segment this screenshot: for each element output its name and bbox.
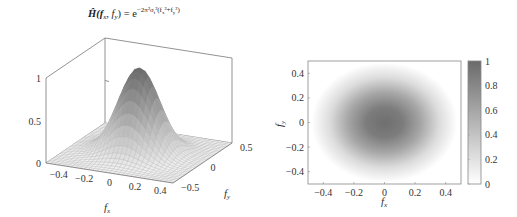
z-tick-label: 0.5 — [29, 116, 42, 127]
heatmap-y-tick: −0.2 — [286, 142, 304, 153]
gaussian-surface — [46, 68, 232, 183]
surface-plot-3d: −0.4−0.200.20.4−0.500.500.51 fx fy — [29, 38, 253, 215]
x-tick-label: −0.2 — [75, 173, 93, 184]
colorbar-tick: 0.2 — [485, 154, 498, 165]
heatmap-y-tick: 0.2 — [292, 92, 305, 103]
heatmap-plot: −0.4−0.200.20.4−0.4−0.200.20.4 fx fy 00.… — [273, 56, 498, 210]
x-tick-label: 0 — [107, 177, 112, 188]
surface-xlabel: fx — [104, 201, 111, 215]
y-tick-label: 0.5 — [240, 142, 253, 153]
heatmap-ylabel: fy — [273, 120, 287, 127]
heatmap-x-tick: 0.2 — [409, 187, 422, 198]
x-tick-label: 0.4 — [154, 185, 167, 196]
figure: Ĥ(fx, fy) = e−2π²σt²(fx²+fy²) −0.4−0.200… — [0, 0, 517, 217]
z-tick-label: 0 — [36, 158, 41, 169]
surface-ylabel: fy — [224, 187, 231, 201]
colorbar-tick: 0.6 — [485, 105, 498, 116]
colorbar-tick: 1 — [485, 56, 490, 67]
y-tick-label: −0.5 — [181, 182, 199, 193]
y-tick-label: 0 — [211, 162, 216, 173]
heatmap-x-tick: −0.2 — [345, 187, 363, 198]
colorbar-tick: 0 — [485, 179, 490, 190]
colorbar — [468, 61, 481, 184]
heatmap-x-tick: −0.4 — [314, 187, 332, 198]
heatmap-y-tick: −0.4 — [286, 166, 304, 177]
heatmap-gaussian — [312, 63, 458, 183]
surface-title: Ĥ(fx, fy) = e−2π²σt²(fx²+fy²) — [87, 6, 180, 21]
heatmap-x-tick: 0.4 — [439, 187, 452, 198]
x-tick-label: −0.4 — [50, 169, 68, 180]
z-tick-label: 1 — [36, 73, 41, 84]
heatmap-y-tick: 0.4 — [292, 68, 305, 79]
x-tick-label: 0.2 — [129, 181, 142, 192]
colorbar-tick: 0.4 — [485, 129, 498, 140]
heatmap-y-tick: 0 — [299, 117, 304, 128]
colorbar-tick: 0.8 — [485, 80, 498, 91]
